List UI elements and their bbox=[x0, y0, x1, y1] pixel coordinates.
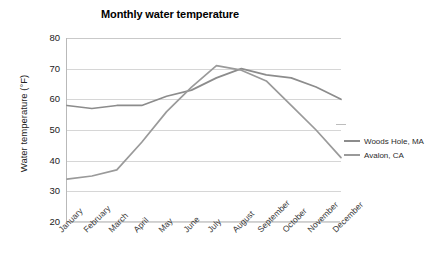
legend-color-swatch bbox=[344, 154, 360, 156]
legend-divider bbox=[336, 124, 346, 125]
legend-item[interactable]: Avalon, CA bbox=[344, 148, 424, 162]
y-tick-label: 80 bbox=[34, 33, 60, 43]
legend-label: Woods Hole, MA bbox=[364, 137, 424, 146]
legend-item[interactable]: Woods Hole, MA bbox=[344, 134, 424, 148]
series-line bbox=[67, 69, 341, 109]
chart-container: Monthly water temperature Water temperat… bbox=[0, 0, 439, 280]
y-axis-title: Water temperature (°F) bbox=[18, 44, 29, 204]
legend-label: Avalon, CA bbox=[364, 151, 404, 160]
y-tick-label: 40 bbox=[34, 156, 60, 166]
series-lines bbox=[67, 38, 341, 222]
chart-title: Monthly water temperature bbox=[0, 8, 340, 20]
series-line bbox=[67, 66, 341, 179]
gridline bbox=[67, 222, 341, 223]
y-tick-label: 70 bbox=[34, 64, 60, 74]
y-tick-label: 60 bbox=[34, 94, 60, 104]
y-tick-label: 30 bbox=[34, 186, 60, 196]
y-tick-label: 50 bbox=[34, 125, 60, 135]
plot-area bbox=[66, 38, 340, 222]
y-tick-label: 20 bbox=[34, 217, 60, 227]
chart-legend: Woods Hole, MAAvalon, CA bbox=[344, 134, 424, 162]
legend-color-swatch bbox=[344, 140, 360, 142]
